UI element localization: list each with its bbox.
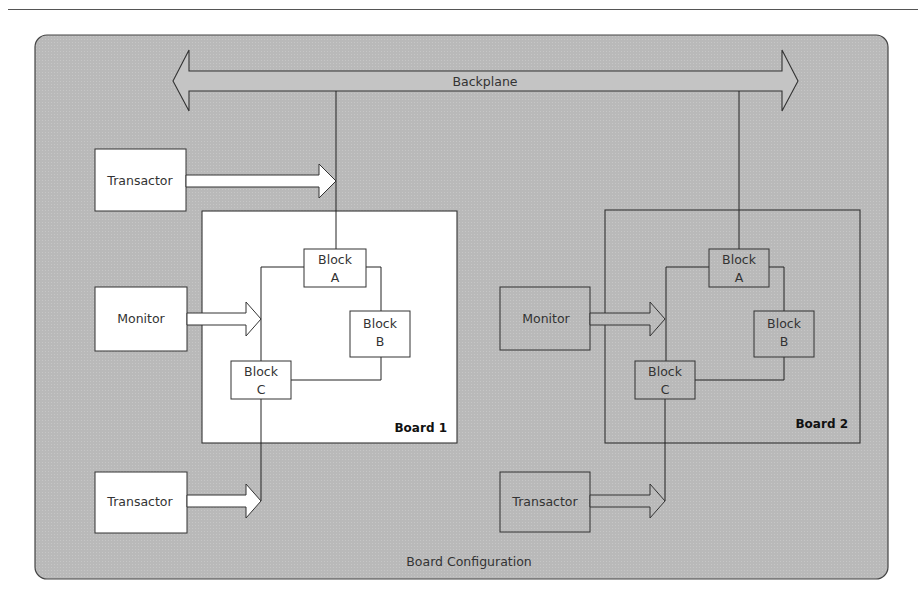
- board-1-label: Board 1: [394, 421, 447, 435]
- svg-text:Block: Block: [318, 252, 353, 267]
- svg-text:Transactor: Transactor: [106, 173, 173, 188]
- svg-text:Block: Block: [244, 364, 279, 379]
- board-1-monitor: Monitor: [95, 287, 187, 351]
- svg-text:Block: Block: [363, 316, 398, 331]
- svg-text:C: C: [257, 382, 266, 397]
- svg-text:A: A: [735, 270, 744, 285]
- board-2-label: Board 2: [795, 417, 848, 431]
- svg-text:B: B: [376, 334, 385, 349]
- board-configuration-diagram: Backplane Board 1 Block A Block B Block …: [0, 0, 924, 612]
- svg-text:Transactor: Transactor: [511, 494, 578, 509]
- svg-text:C: C: [661, 382, 670, 397]
- board-1: [202, 211, 457, 443]
- svg-text:Block: Block: [722, 252, 757, 267]
- svg-text:Monitor: Monitor: [117, 311, 165, 326]
- board-1-block-b: Block B: [350, 311, 410, 357]
- board-configuration-caption: Board Configuration: [406, 554, 531, 569]
- board-1-transactor-bottom: Transactor: [95, 472, 187, 533]
- board-2-block-a: Block A: [709, 249, 769, 287]
- svg-text:Monitor: Monitor: [522, 311, 570, 326]
- board-1-block-c: Block C: [231, 361, 291, 399]
- board-1-transactor-top: Transactor: [95, 149, 186, 211]
- board-1-block-a: Block A: [304, 249, 366, 287]
- svg-text:B: B: [780, 334, 789, 349]
- backplane-label: Backplane: [452, 74, 517, 89]
- board-2-transactor-bottom: Transactor: [500, 472, 590, 532]
- svg-text:Transactor: Transactor: [106, 494, 173, 509]
- svg-text:Block: Block: [648, 364, 683, 379]
- board-2-block-c: Block C: [635, 361, 695, 399]
- svg-text:A: A: [331, 270, 340, 285]
- board-2-monitor: Monitor: [500, 287, 590, 350]
- board-2-block-b: Block B: [754, 311, 814, 357]
- svg-text:Block: Block: [767, 316, 802, 331]
